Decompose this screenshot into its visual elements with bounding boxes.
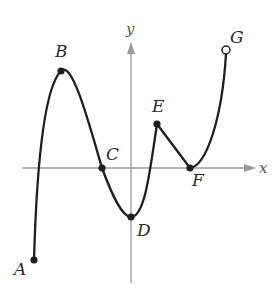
point-g-open xyxy=(222,46,230,54)
label-b: B xyxy=(54,41,68,61)
label-f: F xyxy=(191,170,205,190)
points xyxy=(30,46,230,264)
point-a xyxy=(30,256,37,263)
label-g: G xyxy=(230,27,244,47)
x-axis-arrow-icon xyxy=(244,164,256,172)
label-a: A xyxy=(12,259,26,279)
label-d: D xyxy=(136,220,151,240)
point-d xyxy=(127,213,134,220)
point-e xyxy=(153,120,160,127)
label-e: E xyxy=(151,96,165,116)
label-c: C xyxy=(106,144,119,164)
x-axis-label: x xyxy=(259,159,268,177)
y-axis-label: y xyxy=(125,20,135,38)
function-curve xyxy=(34,54,226,260)
point-labels: A B C D E F G xyxy=(12,27,244,279)
point-c xyxy=(98,164,105,171)
point-b xyxy=(57,67,64,74)
function-graph: x y A B C D E F G xyxy=(0,0,280,291)
y-axis-arrow-icon xyxy=(127,42,135,54)
